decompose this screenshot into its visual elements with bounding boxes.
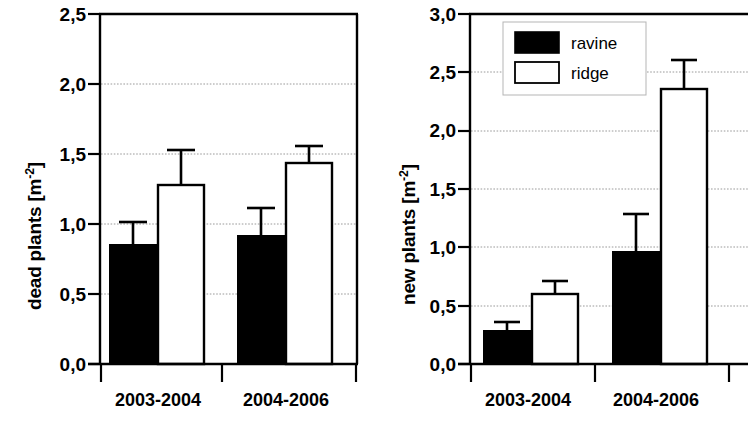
figure-two-panel-bar-charts: dead plants [m-2] 2,5 2,0 1,5 1,0 0,5 0,… bbox=[0, 0, 748, 423]
error-bar-ridge-2004-2006 bbox=[671, 60, 697, 89]
x-axis-right bbox=[458, 364, 748, 382]
error-bar-ravine-2004-2006 bbox=[247, 208, 275, 236]
bar-ravine-2003-2004 bbox=[484, 331, 530, 364]
legend: ravine ridge bbox=[503, 22, 646, 95]
bar-ravine-2004-2006 bbox=[613, 252, 659, 364]
chart-panel-dead-plants: dead plants [m-2] 2,5 2,0 1,5 1,0 0,5 0,… bbox=[0, 0, 374, 423]
error-bar-ravine-2004-2006 bbox=[623, 214, 649, 252]
x-axis-left bbox=[88, 364, 358, 382]
legend-label-ravine: ravine bbox=[571, 34, 617, 53]
error-bar-ravine-2003-2004 bbox=[494, 322, 520, 331]
error-bar-ridge-2003-2004 bbox=[167, 150, 195, 185]
legend-swatch-ravine bbox=[515, 32, 559, 53]
bar-ridge-2004-2006 bbox=[286, 163, 332, 364]
legend-label-ridge: ridge bbox=[571, 64, 609, 83]
bar-ridge-2004-2006 bbox=[661, 89, 707, 364]
y-axis-ticks-left bbox=[88, 14, 100, 364]
bar-ravine-2004-2006 bbox=[238, 236, 284, 364]
bar-ravine-2003-2004 bbox=[110, 245, 156, 364]
bar-ridge-2003-2004 bbox=[532, 294, 578, 364]
plot-area-new-plants: ravine ridge bbox=[374, 0, 748, 423]
error-bar-ravine-2003-2004 bbox=[119, 222, 147, 245]
plot-area-dead-plants bbox=[0, 0, 374, 423]
error-bar-ridge-2003-2004 bbox=[542, 281, 568, 294]
legend-swatch-ridge bbox=[515, 62, 559, 83]
bar-ridge-2003-2004 bbox=[158, 185, 204, 364]
chart-panel-new-plants: new plants [m-2] 3,0 2,5 2,0 1,5 1,0 0,5… bbox=[374, 0, 748, 423]
y-axis-ticks-right bbox=[458, 14, 470, 364]
